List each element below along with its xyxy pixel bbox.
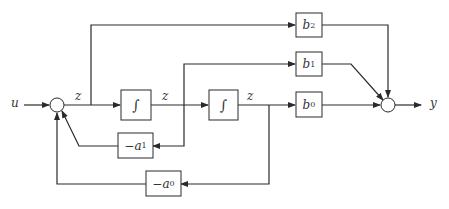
input-summing-junction	[50, 98, 64, 112]
integral-symbol: ∫	[132, 97, 139, 113]
gain-b2: b2	[296, 13, 322, 37]
output-label-y: y	[430, 97, 437, 109]
integral-symbol: ∫	[220, 97, 227, 113]
output-summing-junction	[381, 98, 395, 112]
gain-b1: b1	[296, 52, 322, 76]
gain-b0: b0	[296, 92, 322, 117]
gain-neg-a0: −a0	[146, 171, 181, 196]
z-label-1: z	[75, 90, 81, 102]
z-label-2: z	[162, 90, 168, 102]
integrator-1: ∫	[121, 90, 151, 120]
z-label-3: z	[247, 90, 253, 102]
input-label-u: u	[11, 97, 19, 109]
gain-neg-a1: −a1	[118, 133, 153, 158]
integrator-2: ∫	[209, 90, 238, 120]
